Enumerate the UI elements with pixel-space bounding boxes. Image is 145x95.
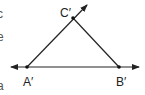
segment-c-b [73, 18, 119, 67]
label-c: C′ [60, 6, 72, 20]
point-a [25, 65, 29, 69]
point-c [71, 16, 75, 20]
label-b: B′ [116, 75, 127, 89]
cropped-text-2: e [0, 30, 4, 44]
cropped-text-3: a [0, 79, 4, 93]
label-a: A′ [23, 75, 34, 89]
triangle-diagram: c e a C′ A′ B′ [0, 0, 145, 95]
ray-a-c [27, 5, 87, 67]
cropped-text-1: c [0, 7, 3, 21]
point-b [117, 65, 121, 69]
